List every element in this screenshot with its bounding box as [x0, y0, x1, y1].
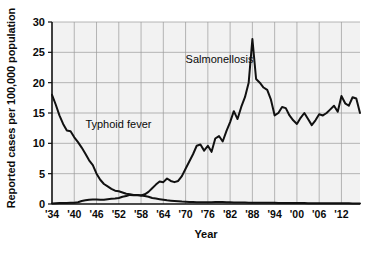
- x-tick-label: '40: [67, 208, 81, 220]
- y-tick-label: 30: [33, 16, 45, 28]
- x-tick-label: '12: [334, 208, 348, 220]
- x-tick-label: '46: [89, 208, 103, 220]
- x-tick-label: '00: [290, 208, 304, 220]
- line-chart-svg: 051015202530 '34'40'46'52'58'64'70'76'82…: [0, 0, 380, 255]
- plot-area-container: 051015202530 '34'40'46'52'58'64'70'76'82…: [0, 0, 380, 255]
- x-tick-label: '94: [268, 208, 282, 220]
- y-tick-label: 5: [39, 168, 45, 180]
- chart-figure: Reported cases per 100,000 population 05…: [0, 0, 380, 255]
- x-tick-label: '70: [178, 208, 192, 220]
- annotation-typhoid-fever: Typhoid fever: [85, 118, 151, 130]
- x-tick-label: '76: [201, 208, 215, 220]
- x-tick-label: '34: [45, 208, 59, 220]
- y-tick-label: 10: [33, 137, 45, 149]
- x-tick-label: '88: [245, 208, 259, 220]
- y-tick-label: 20: [33, 77, 45, 89]
- x-tick-label: '06: [312, 208, 326, 220]
- x-tick-label: '58: [134, 208, 148, 220]
- x-tick-label: '52: [112, 208, 126, 220]
- x-axis-label: Year: [52, 228, 360, 240]
- y-tick-label: 25: [33, 46, 45, 58]
- y-tick-labels: 051015202530: [33, 16, 45, 210]
- y-tick-label: 15: [33, 107, 45, 119]
- x-tick-label: '82: [223, 208, 237, 220]
- annotation-salmonellosis: Salmonellosis: [186, 53, 254, 65]
- x-tick-labels: '34'40'46'52'58'64'70'76'82'88'94'00'06'…: [45, 208, 349, 220]
- x-tick-label: '64: [156, 208, 170, 220]
